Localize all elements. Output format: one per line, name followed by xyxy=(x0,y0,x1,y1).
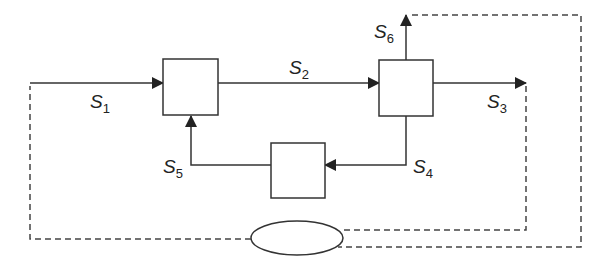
label-s3: S3 xyxy=(487,91,507,116)
unit-1-box xyxy=(163,59,218,115)
unit-2-box xyxy=(379,60,433,116)
label-s2: S2 xyxy=(289,57,309,82)
stream-s5 xyxy=(191,116,271,165)
process-flow-diagram: S1 S2 S3 S4 S5 S6 xyxy=(0,0,607,266)
controller-ellipse xyxy=(251,221,343,255)
label-s5: S5 xyxy=(163,156,183,181)
signal-line-s6-to-controller xyxy=(338,15,581,247)
label-s1: S1 xyxy=(90,91,110,116)
stream-s4 xyxy=(325,116,406,165)
label-s6: S6 xyxy=(374,21,394,46)
unit-3-box xyxy=(271,143,325,198)
label-s4: S4 xyxy=(413,156,433,181)
